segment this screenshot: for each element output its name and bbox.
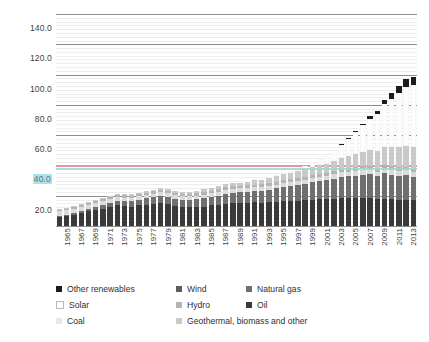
y-tick-label: 20.0 xyxy=(35,205,52,215)
bar-segment xyxy=(172,199,177,206)
bar-segment xyxy=(252,180,257,185)
bar-segment xyxy=(151,190,156,192)
x-tick-label: 1971 xyxy=(106,228,115,246)
bar-segment xyxy=(201,189,206,192)
x-tick-label: 1969 xyxy=(91,228,100,246)
bar-segment xyxy=(375,172,380,177)
bar-segment xyxy=(107,196,112,197)
legend-label: Natural gas xyxy=(257,284,301,294)
legend-label: Solar xyxy=(69,300,89,310)
bar-segment xyxy=(151,194,156,198)
bar-segment xyxy=(396,93,401,148)
bar-segment xyxy=(259,191,264,203)
bar-segment xyxy=(144,195,149,199)
bar-segment xyxy=(107,203,112,207)
bar-segment xyxy=(122,195,127,197)
bar-segment xyxy=(237,203,242,226)
bar-segment xyxy=(339,172,344,177)
bar-segment xyxy=(266,178,271,183)
bar-segment xyxy=(288,171,293,172)
bar-segment xyxy=(382,147,387,165)
x-tick-label: 1977 xyxy=(149,228,158,246)
legend-swatch-icon xyxy=(56,301,64,309)
bar-segment xyxy=(411,85,416,147)
bar-segment xyxy=(317,199,322,226)
bar-segment xyxy=(209,193,214,197)
bar-segment xyxy=(180,194,185,196)
bar-segment xyxy=(136,196,141,200)
bar-segment xyxy=(382,104,387,146)
x-tick-label: 1995 xyxy=(279,228,288,246)
bar-segment xyxy=(180,207,185,226)
bar-segment xyxy=(367,150,372,166)
bar-segment xyxy=(86,209,91,211)
bar-segment xyxy=(295,201,300,226)
bar-segment xyxy=(346,156,351,168)
bar-segment xyxy=(57,211,62,216)
plot-area xyxy=(56,14,417,226)
legend-item: Solar xyxy=(56,300,89,310)
bar-segment xyxy=(288,179,293,182)
bar-segment xyxy=(295,178,300,181)
chart-legend: Other renewablesWindNatural gasSolarHydr… xyxy=(56,284,401,332)
bar-segment xyxy=(360,125,365,151)
bar-segment xyxy=(172,193,177,195)
bar-segment xyxy=(288,173,293,179)
bar-segment xyxy=(353,131,358,132)
bar-segment xyxy=(230,182,235,186)
bar-segment xyxy=(389,199,394,226)
bar-segment xyxy=(165,197,170,204)
bar-segment xyxy=(209,188,214,191)
bar-segment xyxy=(346,172,351,177)
bar-segment xyxy=(57,217,62,226)
bar-segment xyxy=(100,205,105,208)
x-tick-label: 2005 xyxy=(351,228,360,246)
bar-segment xyxy=(281,187,286,202)
bar-segment xyxy=(216,192,221,196)
x-tick-label: 1991 xyxy=(250,228,259,246)
bar-segment xyxy=(93,201,98,203)
bar-segment xyxy=(274,188,279,202)
bar-segment xyxy=(353,154,358,167)
bar-segment xyxy=(274,202,279,226)
bar-segment xyxy=(93,207,98,210)
bar-segment xyxy=(64,216,69,226)
legend-swatch-icon xyxy=(246,302,252,308)
bar-segment xyxy=(79,211,84,213)
bar-segment xyxy=(194,207,199,226)
bar-segment xyxy=(165,193,170,197)
bar-segment xyxy=(403,146,408,167)
bar-segment xyxy=(71,215,76,227)
bar-segment xyxy=(411,77,416,85)
bar-segment xyxy=(346,176,351,198)
bar-segment xyxy=(79,213,84,226)
bar-segment xyxy=(252,191,257,203)
bar-segment xyxy=(129,207,134,226)
bar-segment xyxy=(281,174,286,180)
bar-segment xyxy=(245,185,250,188)
bar-segment xyxy=(187,200,192,207)
bar-segment xyxy=(107,199,112,203)
bar-segment xyxy=(165,191,170,193)
bar-segment xyxy=(57,216,62,217)
bar-segment xyxy=(223,204,228,226)
x-tick-label: 1979 xyxy=(164,228,173,246)
x-tick-label: 1999 xyxy=(308,228,317,246)
bar-segment xyxy=(288,182,293,186)
legend-label: Wind xyxy=(187,284,207,294)
bar-segment xyxy=(403,200,408,226)
bar-segment xyxy=(187,207,192,226)
bar-segment xyxy=(288,201,293,226)
bar-segment xyxy=(194,196,199,200)
bar-segment xyxy=(180,192,185,194)
bar-segment xyxy=(71,213,76,215)
bar-segment xyxy=(245,181,250,186)
bar-segment xyxy=(389,170,394,175)
bar-segment xyxy=(230,186,235,189)
bar-segment xyxy=(317,174,322,177)
legend-swatch-icon xyxy=(56,318,62,324)
bar-segment xyxy=(266,186,271,190)
bar-segment xyxy=(136,205,141,226)
y-tick-label: 40.0 xyxy=(33,174,52,184)
bar-segment xyxy=(216,196,221,205)
